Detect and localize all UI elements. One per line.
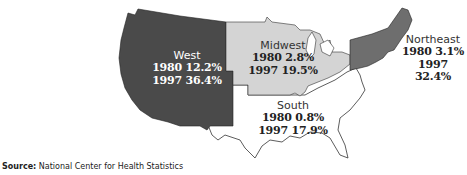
label-northeast: Northeast 1980 3.1% 1997 32.4% <box>400 34 466 83</box>
stat-1980-northeast: 1980 3.1% <box>400 46 466 58</box>
stat-1997-west: 1997 36.4% <box>142 75 232 87</box>
stat-1997-south: 1997 17.9% <box>248 125 338 137</box>
label-midwest: Midwest 1980 2.8% 1997 19.5% <box>238 40 328 77</box>
source-text: National Center for Health Statistics <box>39 162 183 171</box>
us-regions-map <box>0 0 467 175</box>
source-note: Source: National Center for Health Stati… <box>2 162 183 171</box>
stat-1997-northeast: 1997 32.4% <box>400 59 466 84</box>
stat-1980-midwest: 1980 2.8% <box>238 52 328 64</box>
stat-1980-west: 1980 12.2% <box>142 62 232 74</box>
label-west: West 1980 12.2% 1997 36.4% <box>142 50 232 87</box>
label-south: South 1980 0.8% 1997 17.9% <box>248 100 338 137</box>
stat-1980-south: 1980 0.8% <box>248 112 338 124</box>
stat-1997-midwest: 1997 19.5% <box>238 65 328 77</box>
source-label: Source: <box>2 162 36 171</box>
